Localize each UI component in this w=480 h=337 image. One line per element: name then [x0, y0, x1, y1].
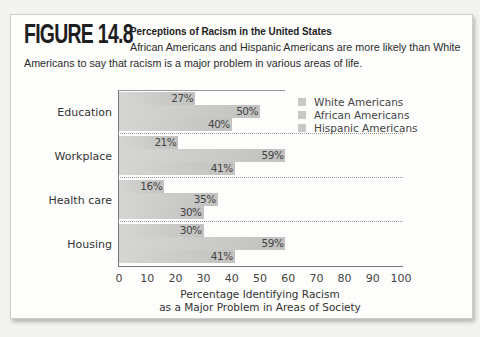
- bar-health-care-2: 30%: [119, 206, 204, 219]
- bar-value-label: 21%: [154, 136, 176, 149]
- bar-education-1: 50%: [119, 105, 260, 118]
- bar-value-label: 30%: [180, 206, 202, 219]
- bar-value-label: 59%: [262, 237, 284, 250]
- category-label: Education: [57, 106, 112, 119]
- x-tick-label: 60: [281, 272, 295, 285]
- x-tick-label: 0: [116, 272, 123, 285]
- bar-value-label: 30%: [180, 224, 202, 237]
- chart-title: Perceptions of Racism in the United Stat…: [130, 25, 332, 37]
- x-tick-label: 20: [168, 272, 182, 285]
- bar-workplace-2: 41%: [119, 162, 235, 175]
- bar-value-label: 59%: [262, 149, 284, 162]
- legend-item-hispanic: Hispanic Americans: [298, 121, 418, 134]
- bar-health-care-0: 16%: [119, 180, 164, 193]
- bar-health-care-1: 35%: [119, 193, 218, 206]
- bar-value-label: 35%: [194, 193, 216, 206]
- category-label: Workplace: [55, 150, 112, 163]
- x-axis-label-line2: as a Major Problem in Areas of Society: [150, 301, 370, 314]
- legend: White Americans African Americans Hispan…: [298, 95, 418, 134]
- bar-workplace-1: 59%: [119, 149, 285, 162]
- bar-education-0: 27%: [119, 92, 195, 105]
- x-tick-label: 10: [140, 272, 154, 285]
- bar-value-label: 27%: [171, 92, 193, 105]
- x-axis-line: [118, 266, 403, 267]
- bar-value-label: 40%: [208, 118, 230, 131]
- category-label: Housing: [67, 238, 112, 251]
- x-axis-label: Percentage Identifying Racism as a Major…: [150, 288, 370, 314]
- bar-value-label: 50%: [236, 105, 258, 118]
- x-tick-label: 80: [338, 272, 352, 285]
- group-separator: [118, 221, 403, 222]
- bar-value-label: 41%: [211, 162, 233, 175]
- group-separator: [118, 177, 403, 178]
- x-axis-label-line1: Percentage Identifying Racism: [150, 288, 370, 301]
- bar-housing-0: 30%: [119, 224, 204, 237]
- bar-housing-1: 59%: [119, 237, 285, 250]
- legend-label: Hispanic Americans: [314, 122, 418, 134]
- legend-swatch: [298, 98, 306, 106]
- legend-label: African Americans: [314, 109, 409, 121]
- plot-top-border: [118, 90, 285, 91]
- bar-value-label: 16%: [140, 180, 162, 193]
- x-tick-label: 30: [197, 272, 211, 285]
- legend-swatch: [298, 111, 306, 119]
- x-tick-label: 90: [366, 272, 380, 285]
- x-tick-label: 40: [225, 272, 239, 285]
- bar-workplace-0: 21%: [119, 136, 178, 149]
- x-tick-label: 50: [253, 272, 267, 285]
- x-tick-label: 70: [309, 272, 323, 285]
- legend-swatch: [298, 124, 306, 132]
- legend-item-white: White Americans: [298, 95, 418, 108]
- bar-housing-2: 41%: [119, 250, 235, 263]
- chart-subtitle-line1: African Americans and Hispanic Americans…: [130, 41, 460, 53]
- bar-education-2: 40%: [119, 118, 232, 131]
- x-tick-label: 100: [391, 272, 412, 285]
- figure-number: FIGURE 14.8: [24, 21, 133, 48]
- legend-label: White Americans: [314, 96, 403, 108]
- legend-item-african: African Americans: [298, 108, 418, 121]
- chart-subtitle-line2: Americans to say that racism is a major …: [24, 57, 362, 69]
- category-label: Health care: [49, 194, 112, 207]
- bar-value-label: 41%: [211, 250, 233, 263]
